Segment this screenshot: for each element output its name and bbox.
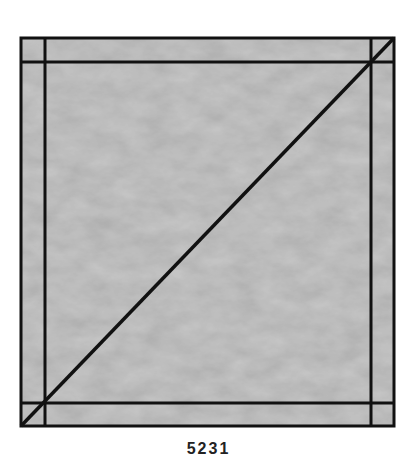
- figure-caption: 5231: [0, 440, 417, 458]
